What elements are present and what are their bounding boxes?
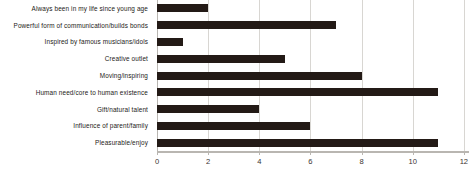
horizontal-bar-chart: Always been in my life since young agePo…: [0, 0, 469, 184]
bar: [157, 4, 208, 12]
bar-row: [157, 105, 259, 113]
bar: [157, 21, 336, 29]
category-label-row: Always been in my life since young age: [0, 3, 151, 13]
x-tick-label: 8: [359, 157, 363, 166]
bar: [157, 88, 438, 96]
bar-row: [157, 88, 438, 96]
x-axis-line: [157, 151, 469, 153]
x-tick-label: 12: [460, 157, 468, 166]
x-tick-mark: [362, 151, 363, 155]
x-tick-mark: [413, 151, 414, 155]
bar-row: [157, 21, 336, 29]
category-label: Influence of parent/family: [73, 122, 151, 129]
bar-row: [157, 38, 183, 46]
bar: [157, 139, 438, 147]
category-label-row: Creative outlet: [0, 54, 151, 64]
x-tick-mark: [310, 151, 311, 155]
bar: [157, 38, 183, 46]
category-label-row: Powerful form of communication/builds bo…: [0, 20, 151, 30]
category-label: Always been in my life since young age: [32, 5, 151, 12]
bar-row: [157, 122, 310, 130]
category-label: Powerful form of communication/builds bo…: [14, 22, 151, 29]
category-label-row: Pleasurable/enjoy: [0, 138, 151, 148]
x-tick-mark: [464, 151, 465, 155]
x-tick-label: 0: [155, 157, 159, 166]
category-label: Human need/core to human existence: [36, 89, 151, 96]
gridline: [464, 0, 465, 151]
bar: [157, 72, 362, 80]
x-tick-mark: [208, 151, 209, 155]
category-label: Moving/inspiring: [100, 72, 151, 79]
category-label: Pleasurable/enjoy: [95, 139, 151, 146]
x-tick-label: 4: [257, 157, 261, 166]
category-label-row: Inspired by famous musicians/idols: [0, 37, 151, 47]
bar: [157, 122, 310, 130]
bar-row: [157, 4, 208, 12]
gridline: [413, 0, 414, 151]
category-label-column: Always been in my life since young agePo…: [0, 0, 155, 151]
category-label: Creative outlet: [105, 55, 151, 62]
bar-row: [157, 55, 285, 63]
bar-row: [157, 139, 438, 147]
category-label-row: Influence of parent/family: [0, 121, 151, 131]
category-label-row: Moving/inspiring: [0, 71, 151, 81]
category-label-row: Human need/core to human existence: [0, 87, 151, 97]
bar: [157, 55, 285, 63]
category-label: Gift/natural talent: [97, 106, 151, 113]
category-label: Inspired by famous musicians/idols: [45, 38, 151, 45]
plot-area: [157, 0, 469, 151]
x-tick-label: 2: [206, 157, 210, 166]
x-tick-label: 6: [308, 157, 312, 166]
x-tick-mark: [259, 151, 260, 155]
category-label-row: Gift/natural talent: [0, 104, 151, 114]
gridline: [362, 0, 363, 151]
bar: [157, 105, 259, 113]
x-tick-label: 10: [409, 157, 417, 166]
x-tick-mark: [157, 151, 158, 155]
bar-row: [157, 72, 362, 80]
